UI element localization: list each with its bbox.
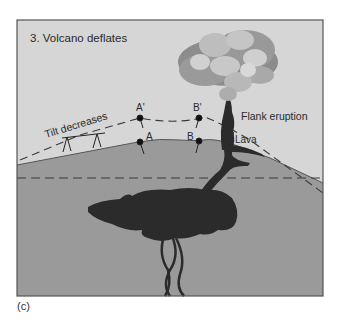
figure-caption: (c) <box>17 300 30 312</box>
panel-title: 3. Volcano deflates <box>30 32 127 44</box>
flank-eruption-label: Flank eruption <box>241 110 308 122</box>
point-a-label: A <box>146 131 153 142</box>
point-b-label: B <box>187 131 194 142</box>
lava-label: Lava <box>235 134 257 145</box>
point-a-prime-label: A' <box>136 102 145 113</box>
volcano-deflation-diagram: 3. Volcano deflates Tilt decreases Flank… <box>0 0 340 326</box>
point-b-prime-label: B' <box>193 102 202 113</box>
